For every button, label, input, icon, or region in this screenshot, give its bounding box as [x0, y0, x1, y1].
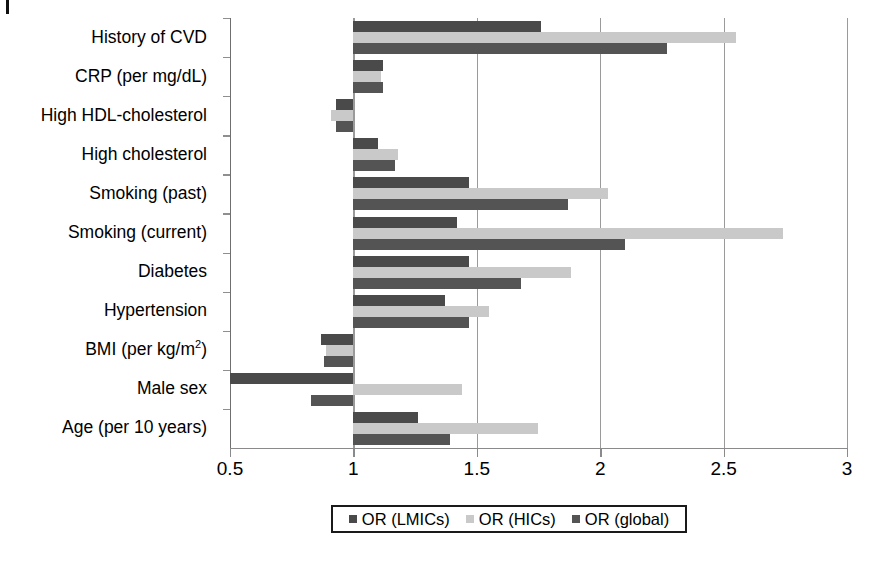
- bar: [353, 43, 666, 54]
- x-axis-tick-label: 0.5: [217, 459, 243, 478]
- category-label: Hypertension: [104, 302, 207, 320]
- x-axis-tick: [230, 448, 231, 457]
- bar: [353, 177, 469, 188]
- legend-item: OR (global): [572, 511, 669, 528]
- y-axis-tick: [223, 409, 230, 410]
- bar: [336, 99, 353, 110]
- bar: [353, 239, 624, 250]
- bar: [353, 138, 378, 149]
- bar: [353, 228, 782, 239]
- bar: [321, 334, 353, 345]
- x-axis-line: [230, 448, 847, 449]
- x-axis-tick: [353, 448, 354, 457]
- bar: [353, 434, 449, 445]
- category-label: Smoking (current): [68, 224, 207, 242]
- bar: [353, 32, 736, 43]
- y-axis-tick: [223, 292, 230, 293]
- bar: [326, 345, 353, 356]
- bar: [353, 306, 489, 317]
- bar: [353, 217, 457, 228]
- bar: [353, 317, 469, 328]
- bar: [353, 71, 380, 82]
- legend-swatch-icon: [466, 515, 474, 523]
- y-axis-tick: [223, 174, 230, 175]
- bar: [353, 188, 607, 199]
- y-axis-tick: [223, 57, 230, 58]
- bar: [353, 412, 417, 423]
- bar: [331, 110, 353, 121]
- gridline: [847, 18, 848, 448]
- bar: [353, 278, 521, 289]
- chart-legend: OR (LMICs)OR (HICs)OR (global): [331, 505, 687, 533]
- legend-item: OR (LMICs): [349, 511, 450, 528]
- figure-container: History of CVDCRP (per mg/dL)High HDL-ch…: [0, 0, 880, 564]
- y-axis-tick: [223, 213, 230, 214]
- bar: [353, 21, 541, 32]
- x-axis-tick-label: 2: [595, 459, 606, 478]
- x-axis-tick: [600, 448, 601, 457]
- bar: [353, 149, 397, 160]
- legend-swatch-icon: [349, 515, 357, 523]
- page-edge-mark: [6, 0, 9, 14]
- category-label: Age (per 10 years): [62, 419, 207, 437]
- bar: [353, 82, 383, 93]
- bar: [336, 121, 353, 132]
- x-axis-tick-label: 1: [348, 459, 359, 478]
- legend-item: OR (HICs): [466, 511, 556, 528]
- category-label: High HDL-cholesterol: [41, 107, 207, 125]
- x-axis-tick-label: 1.5: [464, 459, 490, 478]
- legend-swatch-icon: [572, 515, 580, 523]
- y-axis-tick: [223, 18, 230, 19]
- category-label: History of CVD: [91, 29, 207, 47]
- x-axis-tick-label: 3: [842, 459, 853, 478]
- bar: [324, 356, 354, 367]
- bar: [230, 373, 353, 384]
- legend-label: OR (global): [585, 511, 669, 528]
- bar: [353, 160, 395, 171]
- bar: [353, 423, 538, 434]
- category-label: Male sex: [137, 380, 207, 398]
- category-label-column: History of CVDCRP (per mg/dL)High HDL-ch…: [0, 18, 215, 448]
- category-label: CRP (per mg/dL): [75, 68, 207, 86]
- bar: [353, 267, 570, 278]
- x-axis-tick-label: 2.5: [710, 459, 736, 478]
- category-label: Diabetes: [138, 263, 207, 281]
- category-label: BMI (per kg/m2): [85, 341, 207, 359]
- category-label: High cholesterol: [82, 146, 207, 164]
- plot-area: 0.511.522.53: [230, 18, 847, 448]
- legend-label: OR (LMICs): [362, 511, 450, 528]
- bar: [353, 384, 462, 395]
- category-label: Smoking (past): [89, 185, 207, 203]
- bar: [311, 395, 353, 406]
- bar: [353, 295, 444, 306]
- y-axis-tick: [223, 331, 230, 332]
- bar: [353, 199, 568, 210]
- y-axis-tick: [223, 253, 230, 254]
- y-axis-tick: [223, 96, 230, 97]
- y-axis-tick: [223, 135, 230, 136]
- x-axis-tick: [847, 448, 848, 457]
- legend-label: OR (HICs): [479, 511, 556, 528]
- x-axis-tick: [724, 448, 725, 457]
- x-axis-tick: [477, 448, 478, 457]
- bar: [353, 60, 383, 71]
- y-axis-tick: [223, 370, 230, 371]
- bar: [353, 256, 469, 267]
